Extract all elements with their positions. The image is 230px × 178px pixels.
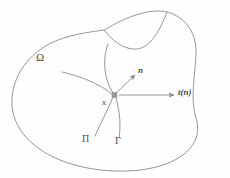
body-notch <box>104 12 167 49</box>
curve-gamma-lower <box>116 98 120 138</box>
normal-vector <box>117 75 136 93</box>
point-marker <box>112 93 117 98</box>
body-outline <box>12 11 198 171</box>
normal-label: n <box>138 66 143 75</box>
surface-label: Γ <box>115 136 121 146</box>
traction-label: t(n) <box>178 88 192 97</box>
plane-label: Π <box>82 134 89 144</box>
point-label: x <box>102 98 106 107</box>
domain-label: Ω <box>36 52 44 63</box>
figure-root: Ω x n t(n) Π Γ <box>0 0 230 178</box>
curve-pi <box>62 72 112 94</box>
diagram-canvas <box>0 0 230 178</box>
curve-gamma-upper <box>105 44 113 93</box>
